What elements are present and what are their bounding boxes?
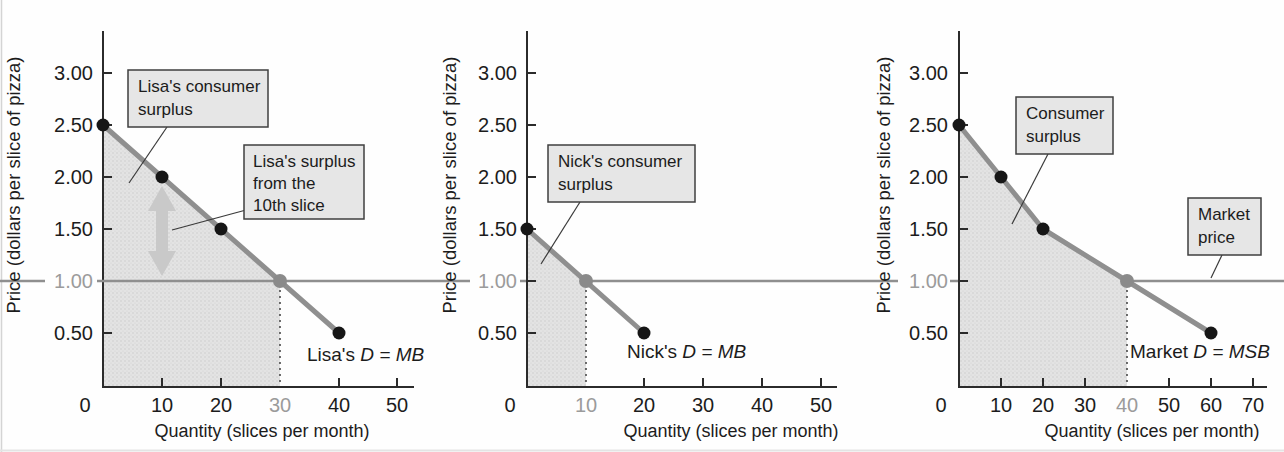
data-point [521,223,534,236]
x-tick-label: 40 [328,394,350,416]
curve-label-math: D = MB [682,341,746,362]
data-point [215,223,228,236]
y-axis-title: Price (dollars per slice of pizza) [873,56,894,313]
x-tick-label-equilibrium: 40 [1116,394,1138,416]
x-tick-label: 40 [751,394,773,416]
x-tick-label: 30 [692,394,714,416]
x-axis-title: Quantity (slices per month) [154,421,369,441]
panel-nick-text: Price (dollars per slice of pizza) 3.00 … [439,56,839,441]
y-tick-label: 2.00 [478,166,517,188]
callout-text: surplus [558,175,613,194]
y-tick-label: 0.50 [909,322,948,344]
equilibrium-point [273,274,287,288]
curve-label-prefix: Nick's [627,341,682,362]
y-tick-label: 1.50 [54,218,93,240]
x-tick-label: 20 [210,394,232,416]
callout-text: Market [1198,205,1250,224]
demand-curve-label: Market D = MSB [1130,341,1270,362]
data-point [1205,327,1218,340]
x-tick-label: 60 [1200,394,1222,416]
y-tick-label: 0.50 [478,322,517,344]
x-tick-label: 0 [504,394,515,416]
x-tick-label: 20 [1032,394,1054,416]
callout-text: price [1198,228,1235,247]
y-tick-label: 2.50 [54,114,93,136]
x-tick-label: 50 [810,394,832,416]
equilibrium-point [1120,274,1134,288]
x-tick-label: 0 [935,394,946,416]
x-tick-label: 50 [386,394,408,416]
y-tick-label: 2.50 [478,114,517,136]
chart-canvas: Price (dollars per slice of pizza) 3.00 … [0,0,1284,452]
x-tick-label: 70 [1242,394,1264,416]
y-tick-label-market-price: 1.00 [478,270,517,292]
callout-text: from the [253,174,315,193]
x-tick-label: 30 [1074,394,1096,416]
callout-text: 10th slice [253,196,325,215]
data-point [156,171,169,184]
callout-line [1211,255,1222,278]
y-tick-label-market-price: 1.00 [54,270,93,292]
y-tick-label: 3.00 [54,62,93,84]
market-consumer-surplus-callout: Consumer surplus [1012,97,1113,224]
y-axis-title: Price (dollars per slice of pizza) [439,56,460,313]
x-tick-label: 0 [79,394,90,416]
y-tick-label-market-price: 1.00 [909,270,948,292]
x-tick-label: 10 [990,394,1012,416]
data-point [97,119,110,132]
nick-consumer-surplus-callout: Nick's consumer surplus [541,145,695,264]
y-tick-label: 0.50 [54,322,93,344]
data-point [995,171,1008,184]
y-axis-title: Price (dollars per slice of pizza) [3,56,24,313]
callout-text: surplus [138,100,193,119]
x-tick-label: 20 [633,394,655,416]
y-tick-label: 3.00 [478,62,517,84]
curve-label-prefix: Market [1130,341,1193,362]
x-axis-title: Quantity (slices per month) [1044,421,1259,441]
x-axis-title: Quantity (slices per month) [623,421,838,441]
curve-label-math: D = MSB [1193,341,1270,362]
y-tick-label: 2.00 [54,166,93,188]
y-tick-label: 2.50 [909,114,948,136]
curve-label-prefix: Lisa's [307,344,360,365]
callout-text: Nick's consumer [558,152,683,171]
demand-curve-label: Nick's D = MB [627,341,747,362]
y-tick-label: 1.50 [478,218,517,240]
demand-curve-label: Lisa's D = MB [307,344,424,365]
data-point [333,327,346,340]
callout-text: Lisa's consumer [138,77,261,96]
x-tick-label-equilibrium: 30 [269,394,291,416]
data-point [638,327,651,340]
x-tick-label: 10 [151,394,173,416]
callout-text: surplus [1026,127,1081,146]
y-tick-label: 3.00 [909,62,948,84]
market-price-callout: Market price [1188,198,1261,278]
data-point [953,119,966,132]
callout-line [541,202,580,264]
equilibrium-point [579,274,593,288]
data-point [1037,223,1050,236]
y-tick-label: 1.50 [909,218,948,240]
callout-text: Consumer [1026,104,1105,123]
curve-label-math: D = MB [360,344,424,365]
callout-text: Lisa's surplus [253,152,355,171]
x-tick-label-equilibrium: 10 [575,394,597,416]
y-tick-label: 2.00 [909,166,948,188]
figure-consumer-surplus: Price (dollars per slice of pizza) 3.00 … [0,0,1284,452]
panel-nick [521,31,838,387]
x-tick-label: 50 [1158,394,1180,416]
